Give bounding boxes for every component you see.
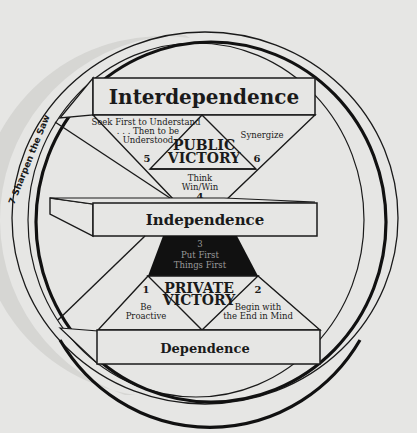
seven-habits-diagram: Interdependence PUBLIC VICTORY Seek Firs… [0,0,417,433]
habit-6-line-1: Synergize [241,130,284,140]
habit-2-number: 2 [255,284,262,295]
habit-1-line-2: Proactive [126,311,167,321]
independence-block: Independence [50,198,317,236]
independence-label: Independence [146,211,265,229]
habit-1-number: 1 [143,284,150,295]
dependence-block: Dependence [60,328,320,364]
habit-2-line-2: the End in Mind [223,311,293,321]
habit-5-line-3: Understood [123,135,174,145]
habit-3-line-2: Things First [174,260,227,270]
public-victory-label-2: VICTORY [167,150,241,166]
habit-5-number: 5 [144,153,151,164]
interdependence-label: Interdependence [109,85,300,109]
public-victory-section: PUBLIC VICTORY Seek First to Understand … [55,115,315,202]
interdependence-block: Interdependence [60,78,315,118]
habit-6-number: 6 [254,153,261,164]
private-victory-section: 3 Put First Things First PRIVATE VICTORY… [58,236,320,330]
habit-3-line-1: Put First [181,250,219,260]
private-victory-label-2: VICTORY [162,292,236,308]
habit-3-number: 3 [197,239,202,249]
dependence-label: Dependence [160,341,249,356]
